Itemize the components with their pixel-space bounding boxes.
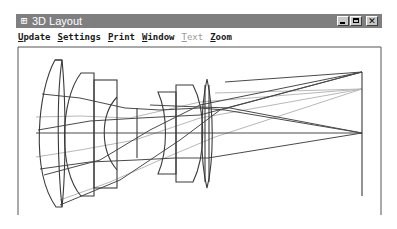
rays-dark (36, 72, 362, 205)
ray (38, 72, 362, 130)
ray (36, 89, 362, 118)
lens-3 (94, 80, 117, 188)
plot-frame (18, 47, 381, 215)
lens-2 (64, 73, 94, 196)
layout-canvas[interactable] (0, 0, 397, 229)
